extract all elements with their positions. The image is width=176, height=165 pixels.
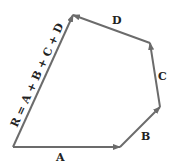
label-c: C (158, 70, 167, 83)
label-a: A (55, 151, 65, 164)
label-b: B (141, 130, 150, 143)
vector-diagram: A B C D R = A + B + C + D (0, 0, 176, 165)
label-resultant: R = A + B + C + D (8, 21, 67, 129)
vector-polygon: A B C D R = A + B + C + D (0, 0, 176, 165)
resultant-r-arrow (13, 15, 73, 147)
vector-b-arrow (120, 107, 160, 147)
label-d: D (112, 14, 122, 27)
